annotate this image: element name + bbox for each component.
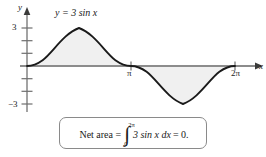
curve-equation-label: y = 3 sin x [55, 8, 97, 18]
y-tick-label-negative-3: −3 [8, 100, 18, 109]
x-tick-label-pi: π [127, 69, 132, 78]
x-axis-label: x [259, 62, 263, 71]
net-area-callout-box: Net area = 2π ∫ 0 3 sin x dx = 0. [59, 117, 207, 149]
integrand-expression: 3 sin x dx [133, 129, 171, 140]
x-tick-label-2pi: 2π [231, 69, 240, 78]
y-axis-arrowhead [24, 7, 31, 15]
integral-lower-limit: 0 [124, 140, 127, 147]
sine-net-area-figure: y x 3 −3 π 2π y = 3 sin x Net area = 2π … [0, 0, 266, 157]
net-area-callout-content: Net area = 2π ∫ 0 3 sin x dx = 0. [60, 118, 208, 150]
net-area-lead-text: Net area = [79, 129, 121, 140]
integral-symbol-group: 2π ∫ 0 [124, 121, 130, 147]
y-axis-label: y [18, 3, 22, 12]
integral-result: = 0. [173, 129, 189, 140]
y-tick-label-3: 3 [12, 23, 17, 32]
